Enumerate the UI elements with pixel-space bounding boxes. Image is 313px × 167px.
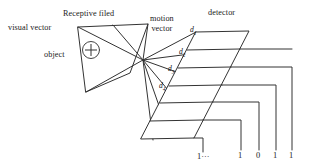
output-wire-2: [213, 102, 259, 150]
label-motion-vector-line1: motion: [150, 14, 174, 23]
output-wire-ellipsis: [194, 138, 203, 152]
label-d3: d3: [168, 65, 174, 76]
output-bit-2: 1: [273, 151, 277, 160]
output-bit-ellipsis: 1···: [197, 152, 210, 161]
output-wire-4: [231, 67, 292, 150]
label-d1-sub: 1: [194, 30, 197, 36]
label-d1: d1: [190, 26, 196, 37]
label-motion-vector: motion vector: [150, 14, 174, 33]
output-bit-1: 0: [256, 151, 260, 160]
label-d4: d4: [159, 82, 165, 93]
label-d2: d2: [179, 48, 185, 59]
label-visual-vector: visual vector: [8, 23, 51, 32]
output-wire-3: [222, 85, 276, 150]
label-receptive-field: Receptive filed: [63, 9, 114, 18]
output-bit-3: 1: [289, 151, 293, 160]
output-wire-1: [203, 120, 241, 150]
output-bit-0: 1: [238, 151, 242, 160]
label-d3-sub: 3: [172, 69, 175, 75]
circled-plus-icon: [83, 42, 100, 59]
label-motion-vector-line2: vector: [151, 24, 172, 33]
label-object: object: [44, 50, 65, 59]
figure-root: visual vector Receptive filed object mot…: [0, 0, 313, 167]
label-d2-sub: 2: [183, 52, 186, 58]
label-detector: detector: [208, 8, 235, 17]
label-d4-sub: 4: [163, 86, 166, 92]
